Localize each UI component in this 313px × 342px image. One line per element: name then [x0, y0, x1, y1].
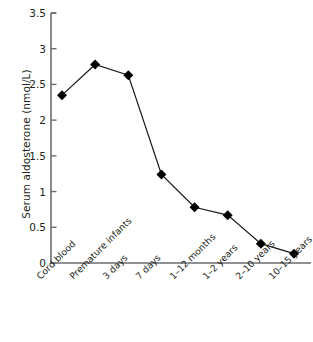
- axis-lines: [51, 13, 311, 263]
- chart-plot-area: [0, 0, 313, 342]
- y-axis-tick-marks: [51, 13, 57, 263]
- chart-container: Serum aldosterone (nmol/L) 3.5 3 2.5 2 1…: [0, 0, 313, 342]
- data-line: [62, 64, 294, 253]
- data-point-marker: [123, 70, 133, 80]
- data-markers: [57, 59, 299, 258]
